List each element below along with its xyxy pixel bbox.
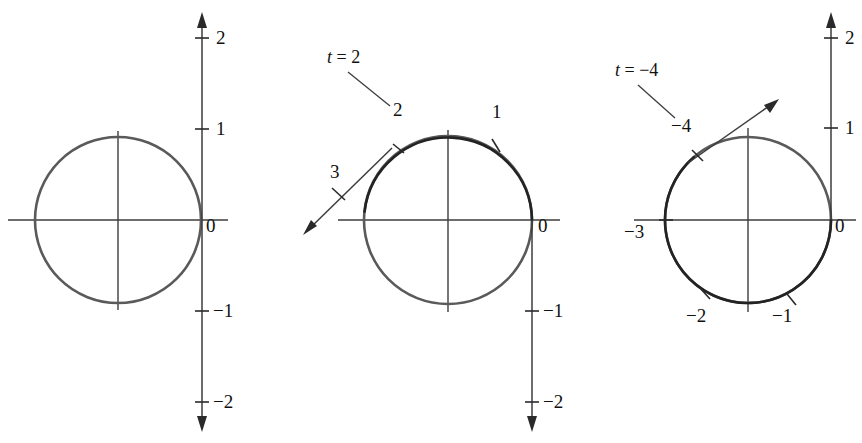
p3-label-1: 1 [845,118,855,137]
p3-annotation-label: t = −4 [615,61,658,79]
p3-label-m3: −3 [624,222,644,241]
p3-label-0: 0 [835,216,845,235]
p3-label-m2: −2 [686,306,706,325]
p3-label-2: 2 [845,28,855,47]
p3-label-m1: −1 [772,306,792,325]
p3-arrowhead-tangent [764,99,779,113]
p3-annotation-leader [638,85,675,118]
panel-unit-circle-wrap-negative [0,0,862,443]
p3-annotation-value: −4 [639,60,658,80]
p3-tick-m1 [787,294,796,305]
figure-canvas: 2 1 0 −1 −2 t = 2 2 1 3 0 −1 −2 [0,0,862,443]
p3-arrowhead-up [826,12,836,28]
p3-label-m4: −4 [671,116,691,135]
p3-tangent-ray [688,104,772,163]
